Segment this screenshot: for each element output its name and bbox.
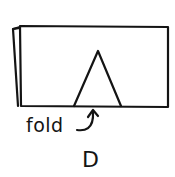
triangle-shape xyxy=(74,51,121,106)
diagram-caption: D xyxy=(82,147,99,172)
fold-label: fold xyxy=(26,114,64,136)
fold-diagram: fold D xyxy=(0,0,175,177)
back-sheet-edge xyxy=(13,27,20,106)
folded-paper-rectangle xyxy=(20,26,168,107)
